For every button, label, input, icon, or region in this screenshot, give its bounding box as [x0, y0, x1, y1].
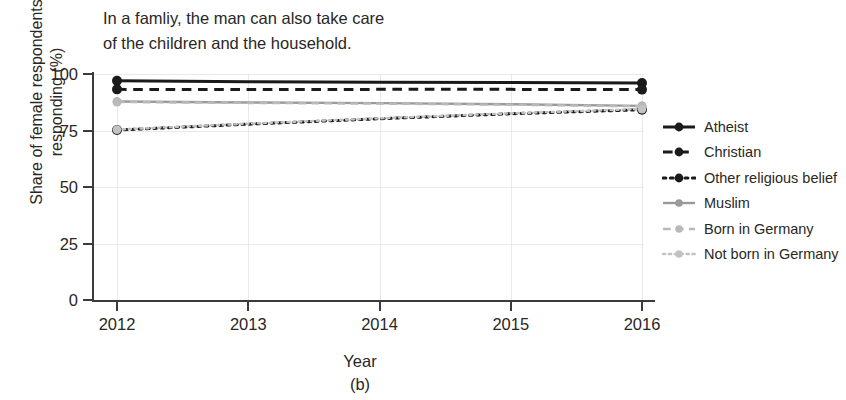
legend-marker-icon	[662, 120, 696, 134]
y-tick-mark	[83, 299, 92, 301]
data-point	[113, 98, 122, 107]
y-tick-mark	[83, 130, 92, 132]
x-tick-label: 2013	[230, 315, 267, 334]
x-tick-label: 2014	[361, 315, 398, 334]
series-not-born-in-germany	[113, 105, 647, 134]
series-christian	[112, 84, 647, 94]
y-tick-label: 50	[60, 178, 78, 197]
data-point	[112, 76, 122, 86]
x-tick-mark	[641, 302, 643, 311]
legend-item-not-born-in-germany[interactable]: Not born in Germany	[662, 242, 846, 268]
y-tick-label: 0	[69, 291, 78, 310]
legend-label: Atheist	[704, 119, 748, 135]
legend-label: Born in Germany	[704, 221, 814, 237]
subfigure-caption: (b)	[0, 375, 720, 394]
x-tick-label: 2016	[624, 315, 661, 334]
series-other-religious-belief	[112, 105, 647, 135]
x-tick-mark	[247, 302, 249, 311]
data-point	[638, 105, 647, 114]
legend-marker-icon	[662, 171, 696, 185]
legend-label: Other religious belief	[704, 170, 837, 186]
legend-item-born-in-germany[interactable]: Born in Germany	[662, 216, 846, 242]
y-tick-label: 25	[60, 234, 78, 253]
legend-item-christian[interactable]: Christian	[662, 140, 846, 166]
legend-label: Muslim	[704, 195, 750, 211]
chart-legend: AtheistChristianOther religious beliefMu…	[662, 114, 846, 267]
legend-item-other-religious-belief[interactable]: Other religious belief	[662, 165, 846, 191]
legend-marker-icon	[662, 196, 696, 210]
data-point	[637, 85, 647, 95]
plot-area: 0255075100 20122013201420152016	[92, 74, 644, 300]
data-point	[112, 84, 122, 94]
legend-marker-icon	[662, 145, 696, 159]
legend-item-muslim[interactable]: Muslim	[662, 191, 846, 217]
data-point	[113, 125, 122, 134]
x-tick-mark	[379, 302, 381, 311]
series-atheist	[112, 76, 647, 88]
y-tick-label: 100	[50, 65, 78, 84]
legend-marker-icon	[662, 247, 696, 261]
x-axis-line	[92, 300, 655, 302]
figure-panel-b: In a famliy, the man can also take care …	[0, 0, 846, 400]
x-axis-title: Year	[0, 352, 720, 371]
x-tick-label: 2015	[492, 315, 529, 334]
legend-label: Christian	[704, 144, 761, 160]
y-tick-label: 75	[60, 121, 78, 140]
legend-label: Not born in Germany	[704, 246, 839, 262]
x-tick-mark	[116, 302, 118, 311]
y-tick-mark	[83, 243, 92, 245]
x-tick-label: 2012	[99, 315, 136, 334]
y-tick-mark	[83, 186, 92, 188]
legend-item-atheist[interactable]: Atheist	[662, 114, 846, 140]
chart-title: In a famliy, the man can also take care …	[103, 6, 563, 56]
x-tick-mark	[510, 302, 512, 311]
legend-marker-icon	[662, 222, 696, 236]
data-series-layer	[92, 74, 644, 300]
y-tick-mark	[83, 73, 92, 75]
